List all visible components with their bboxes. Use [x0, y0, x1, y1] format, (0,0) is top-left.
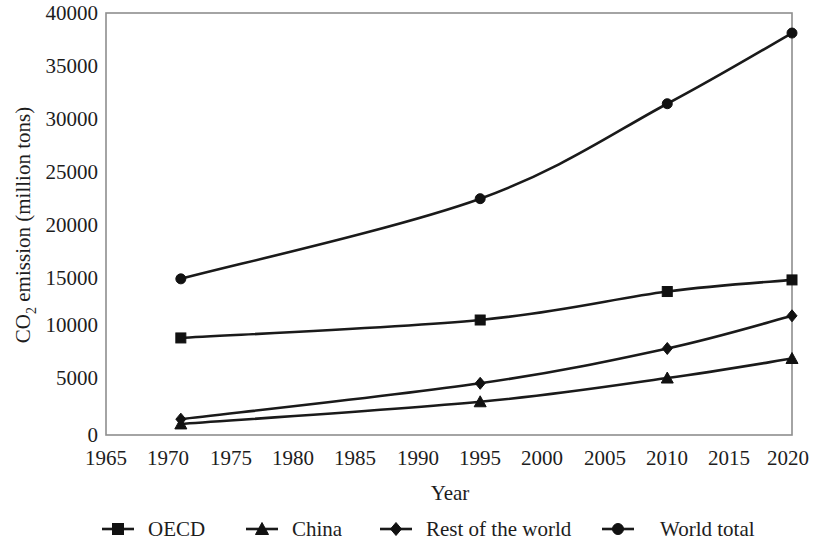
plot-area-frame: [106, 13, 792, 435]
x-tick-label: 2015: [708, 446, 750, 470]
square-marker-icon: [176, 333, 186, 343]
y-axis-title-subscript: 2: [24, 307, 39, 314]
series-line: [181, 359, 792, 424]
x-axis-title: Year: [431, 481, 470, 505]
chart-figure: 40000 35000 30000 25000 20000 15000 1000…: [0, 0, 823, 557]
legend-item-oecd[interactable]: OECD: [102, 517, 205, 541]
y-tick-label: 10000: [46, 313, 99, 337]
legend-label: OECD: [148, 517, 205, 541]
svg-text:CO2 emission (million tons): CO2 emission (million tons): [11, 107, 39, 343]
legend-item-rest-of-the-world[interactable]: Rest of the world: [380, 517, 572, 541]
legend-label: World total: [660, 517, 755, 541]
x-tick-label: 1990: [397, 446, 439, 470]
series-layer: [175, 28, 798, 429]
diamond-marker-icon: [475, 377, 485, 389]
co2-emission-line-chart: 40000 35000 30000 25000 20000 15000 1000…: [0, 0, 823, 557]
diamond-marker-icon: [391, 523, 402, 536]
square-marker-icon: [475, 315, 485, 325]
y-tick-label: 5000: [56, 366, 98, 390]
chart-legend: OECDChinaRest of the worldWorld total: [102, 517, 755, 541]
square-marker-icon: [662, 287, 672, 297]
chart-canvas: 40000 35000 30000 25000 20000 15000 1000…: [0, 0, 823, 557]
y-axis-title: CO2 emission (million tons): [11, 107, 39, 343]
series-line: [181, 33, 792, 279]
x-tick-label: 1980: [272, 446, 314, 470]
y-tick-label: 15000: [46, 266, 99, 290]
diamond-marker-icon: [662, 342, 672, 354]
circle-marker-icon: [475, 194, 485, 204]
legend-item-china[interactable]: China: [246, 517, 343, 541]
circle-marker-icon: [613, 524, 624, 535]
y-axis-title-pre: CO: [11, 314, 35, 343]
diamond-marker-icon: [787, 310, 797, 322]
y-tick-label: 30000: [46, 107, 99, 131]
legend-label: China: [292, 517, 343, 541]
y-tick-label: 20000: [46, 213, 99, 237]
x-tick-label: 1985: [334, 446, 376, 470]
y-axis-tick-labels: 40000 35000 30000 25000 20000 15000 1000…: [46, 1, 99, 447]
y-tick-label: 40000: [46, 1, 99, 25]
x-axis-tick-labels: 1965 1970 1975 1980 1985 1990 1995 2000 …: [85, 446, 809, 470]
series-rest-of-the-world: [176, 310, 797, 425]
y-tick-label: 25000: [46, 160, 99, 184]
y-axis-title-post: emission (million tons): [11, 107, 35, 307]
legend-label: Rest of the world: [426, 517, 572, 541]
x-tick-label: 1965: [85, 446, 127, 470]
series-world-total: [176, 28, 797, 284]
square-marker-icon: [113, 524, 124, 535]
series-line: [181, 316, 792, 419]
x-tick-label: 1970: [147, 446, 189, 470]
legend-item-world-total[interactable]: World total: [602, 517, 755, 541]
y-tick-label: 35000: [46, 54, 99, 78]
x-tick-label: 2005: [584, 446, 626, 470]
series-line: [181, 280, 792, 338]
x-tick-label: 2010: [646, 446, 688, 470]
series-oecd: [176, 275, 797, 343]
circle-marker-icon: [662, 99, 672, 109]
circle-marker-icon: [176, 274, 186, 284]
x-tick-label: 1995: [459, 446, 501, 470]
x-tick-label: 1975: [210, 446, 252, 470]
x-tick-label: 2020: [767, 446, 809, 470]
y-tick-label: 0: [88, 423, 99, 447]
x-tick-label: 2000: [521, 446, 563, 470]
square-marker-icon: [787, 275, 797, 285]
series-china: [175, 353, 798, 429]
circle-marker-icon: [787, 28, 797, 38]
